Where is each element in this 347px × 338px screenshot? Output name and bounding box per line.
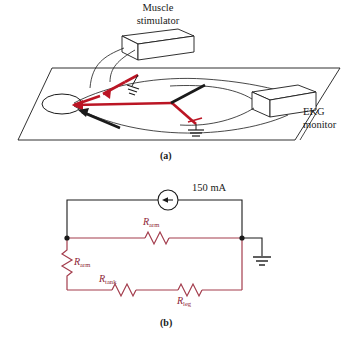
caption-b: (b) (160, 317, 172, 328)
resistor-label-r-leg-sub: leg (183, 300, 191, 307)
resistor-label-r-arm-top-sub: arm (149, 221, 159, 228)
muscle-stimulator-label: Muscle stimulator (110, 2, 206, 27)
resistor-label-r-arm-left: Rarm (74, 256, 90, 267)
ekg-monitor-label: EKG monitor (303, 106, 347, 131)
textbook-figure (0, 0, 347, 338)
current-source-label: 150 mA (192, 182, 226, 193)
left-node (64, 235, 69, 240)
current-source (158, 190, 178, 210)
ekg-monitor-label-line2: monitor (303, 119, 347, 132)
muscle-stimulator-label-line1: Muscle (110, 2, 206, 15)
muscle-stimulator-label-line2: stimulator (110, 15, 206, 28)
caption-a: (a) (160, 150, 172, 161)
ekg-monitor-label-line1: EKG (303, 106, 347, 119)
resistor-label-r-arm-left-sub: arm (80, 261, 90, 268)
resistor-label-r-arm-top: Rarm (143, 216, 159, 227)
resistor-label-r-tank: Rtank (99, 273, 116, 284)
resistor-label-r-leg: Rleg (177, 295, 191, 306)
resistor-label-r-tank-sub: tank (105, 278, 116, 285)
